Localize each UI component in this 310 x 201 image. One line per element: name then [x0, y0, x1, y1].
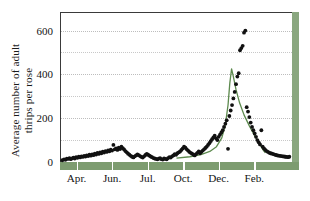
- trend-line: [177, 69, 266, 158]
- data-point: [259, 128, 263, 132]
- data-point: [112, 143, 116, 147]
- data-point: [226, 147, 230, 151]
- data-point: [246, 110, 250, 114]
- x-tick-label: Apr.: [67, 172, 87, 184]
- x-tick-label: Jul.: [140, 172, 156, 184]
- data-point: [230, 103, 234, 107]
- data-point: [237, 71, 241, 75]
- x-tick-label: Feb.: [244, 172, 264, 184]
- x-tick-label: Oct.: [174, 172, 193, 184]
- thrips-seasonal-chart: Average number of adult thrips per rose …: [0, 0, 310, 201]
- x-tick-label: Jun.: [103, 172, 121, 184]
- data-point: [229, 109, 233, 113]
- data-point: [250, 125, 254, 129]
- data-point: [233, 90, 237, 94]
- y-tick-label: 0: [0, 156, 53, 168]
- data-point: [243, 29, 247, 33]
- data-points: [60, 29, 291, 163]
- data-point: [221, 128, 225, 132]
- data-point: [227, 114, 231, 118]
- data-point: [225, 118, 229, 122]
- plot-area: [60, 12, 299, 170]
- y-tick-label: 400: [0, 68, 53, 80]
- x-tick-label: Dec.: [208, 172, 229, 184]
- x-axis-tick-labels: Apr.Jun.Jul.Oct.Dec.Feb.: [60, 172, 299, 194]
- data-point: [231, 97, 235, 101]
- data-point: [251, 128, 255, 132]
- data-point: [254, 135, 258, 139]
- data-point: [223, 122, 227, 126]
- data-point: [234, 82, 238, 86]
- y-tick-label: 600: [0, 25, 53, 37]
- data-point: [235, 75, 239, 79]
- data-point: [249, 121, 253, 125]
- data-point: [222, 125, 226, 129]
- y-tick-label: 200: [0, 112, 53, 124]
- data-point: [215, 138, 219, 142]
- data-point: [241, 44, 245, 48]
- data-point: [287, 155, 291, 159]
- data-point: [247, 115, 251, 119]
- data-layer: [60, 12, 299, 170]
- data-point: [253, 132, 257, 136]
- data-point: [245, 105, 249, 109]
